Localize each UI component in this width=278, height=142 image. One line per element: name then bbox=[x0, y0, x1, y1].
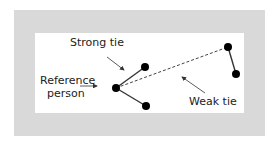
node-weak-b bbox=[232, 70, 240, 78]
social-tie-diagram: Strong tie Reference person Weak tie bbox=[0, 0, 278, 142]
node-weak-a bbox=[224, 43, 232, 51]
strong-tie-label: Strong tie bbox=[70, 36, 124, 49]
weak-tie-label: Weak tie bbox=[189, 95, 237, 108]
reference-person-node bbox=[112, 84, 120, 92]
node-strong-b bbox=[142, 102, 150, 110]
node-strong-a bbox=[141, 63, 149, 71]
reference-person-label-line1: Reference bbox=[40, 74, 96, 87]
reference-person-label-line2: person bbox=[47, 87, 85, 100]
